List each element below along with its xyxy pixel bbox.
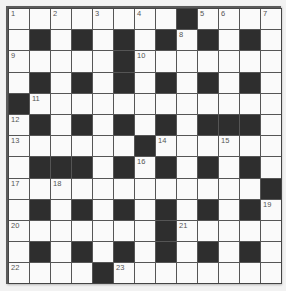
answer-cell[interactable]: 12 bbox=[9, 115, 29, 135]
answer-cell[interactable] bbox=[51, 200, 71, 220]
answer-cell[interactable] bbox=[177, 51, 197, 71]
answer-cell[interactable] bbox=[156, 94, 176, 114]
answer-cell[interactable] bbox=[261, 263, 281, 283]
answer-cell[interactable] bbox=[51, 115, 71, 135]
answer-cell[interactable]: 6 bbox=[219, 9, 239, 29]
answer-cell[interactable]: 4 bbox=[135, 9, 155, 29]
answer-cell[interactable] bbox=[135, 263, 155, 283]
answer-cell[interactable] bbox=[135, 94, 155, 114]
answer-cell[interactable] bbox=[51, 263, 71, 283]
answer-cell[interactable] bbox=[219, 179, 239, 199]
answer-cell[interactable] bbox=[219, 200, 239, 220]
answer-cell[interactable] bbox=[177, 136, 197, 156]
answer-cell[interactable] bbox=[177, 263, 197, 283]
answer-cell[interactable] bbox=[240, 136, 260, 156]
answer-cell[interactable]: 2 bbox=[51, 9, 71, 29]
answer-cell[interactable] bbox=[114, 179, 134, 199]
answer-cell[interactable] bbox=[72, 221, 92, 241]
answer-cell[interactable] bbox=[93, 179, 113, 199]
answer-cell[interactable] bbox=[93, 221, 113, 241]
answer-cell[interactable] bbox=[51, 51, 71, 71]
answer-cell[interactable]: 3 bbox=[93, 9, 113, 29]
answer-cell[interactable] bbox=[261, 115, 281, 135]
answer-cell[interactable] bbox=[219, 263, 239, 283]
answer-cell[interactable]: 22 bbox=[9, 263, 29, 283]
answer-cell[interactable] bbox=[156, 263, 176, 283]
answer-cell[interactable] bbox=[93, 73, 113, 93]
answer-cell[interactable] bbox=[9, 73, 29, 93]
answer-cell[interactable] bbox=[240, 94, 260, 114]
answer-cell[interactable] bbox=[198, 221, 218, 241]
answer-cell[interactable] bbox=[156, 51, 176, 71]
answer-cell[interactable] bbox=[240, 221, 260, 241]
answer-cell[interactable] bbox=[9, 157, 29, 177]
answer-cell[interactable] bbox=[261, 94, 281, 114]
answer-cell[interactable]: 1 bbox=[9, 9, 29, 29]
answer-cell[interactable] bbox=[9, 242, 29, 262]
answer-cell[interactable]: 10 bbox=[135, 51, 155, 71]
answer-cell[interactable]: 14 bbox=[156, 136, 176, 156]
answer-cell[interactable] bbox=[93, 94, 113, 114]
answer-cell[interactable] bbox=[198, 263, 218, 283]
answer-cell[interactable] bbox=[9, 200, 29, 220]
answer-cell[interactable] bbox=[219, 242, 239, 262]
answer-cell[interactable] bbox=[135, 73, 155, 93]
answer-cell[interactable] bbox=[72, 179, 92, 199]
answer-cell[interactable] bbox=[177, 94, 197, 114]
answer-cell[interactable] bbox=[177, 200, 197, 220]
answer-cell[interactable] bbox=[30, 179, 50, 199]
answer-cell[interactable]: 17 bbox=[9, 179, 29, 199]
answer-cell[interactable] bbox=[93, 157, 113, 177]
answer-cell[interactable] bbox=[261, 136, 281, 156]
answer-cell[interactable] bbox=[72, 51, 92, 71]
answer-cell[interactable] bbox=[72, 9, 92, 29]
answer-cell[interactable] bbox=[135, 200, 155, 220]
answer-cell[interactable] bbox=[72, 136, 92, 156]
answer-cell[interactable] bbox=[177, 115, 197, 135]
answer-cell[interactable]: 18 bbox=[51, 179, 71, 199]
answer-cell[interactable] bbox=[93, 115, 113, 135]
answer-cell[interactable] bbox=[198, 51, 218, 71]
answer-cell[interactable] bbox=[72, 94, 92, 114]
answer-cell[interactable] bbox=[198, 94, 218, 114]
answer-cell[interactable]: 15 bbox=[219, 136, 239, 156]
answer-cell[interactable] bbox=[93, 30, 113, 50]
answer-cell[interactable] bbox=[198, 179, 218, 199]
answer-cell[interactable] bbox=[156, 9, 176, 29]
answer-cell[interactable]: 11 bbox=[30, 94, 50, 114]
answer-cell[interactable] bbox=[51, 94, 71, 114]
answer-cell[interactable] bbox=[51, 242, 71, 262]
answer-cell[interactable] bbox=[261, 73, 281, 93]
answer-cell[interactable] bbox=[219, 30, 239, 50]
answer-cell[interactable] bbox=[240, 179, 260, 199]
answer-cell[interactable] bbox=[9, 30, 29, 50]
answer-cell[interactable]: 7 bbox=[261, 9, 281, 29]
answer-cell[interactable] bbox=[51, 221, 71, 241]
answer-cell[interactable] bbox=[219, 51, 239, 71]
answer-cell[interactable] bbox=[93, 136, 113, 156]
answer-cell[interactable] bbox=[135, 242, 155, 262]
answer-cell[interactable] bbox=[93, 242, 113, 262]
answer-cell[interactable] bbox=[72, 263, 92, 283]
answer-cell[interactable] bbox=[114, 94, 134, 114]
answer-cell[interactable] bbox=[219, 221, 239, 241]
answer-cell[interactable] bbox=[114, 136, 134, 156]
answer-cell[interactable] bbox=[219, 157, 239, 177]
answer-cell[interactable] bbox=[219, 94, 239, 114]
answer-cell[interactable]: 19 bbox=[261, 200, 281, 220]
answer-cell[interactable] bbox=[219, 73, 239, 93]
answer-cell[interactable]: 20 bbox=[9, 221, 29, 241]
answer-cell[interactable] bbox=[30, 9, 50, 29]
answer-cell[interactable]: 5 bbox=[198, 9, 218, 29]
answer-cell[interactable] bbox=[261, 242, 281, 262]
answer-cell[interactable] bbox=[93, 200, 113, 220]
answer-cell[interactable] bbox=[261, 157, 281, 177]
answer-cell[interactable] bbox=[240, 51, 260, 71]
answer-cell[interactable]: 23 bbox=[114, 263, 134, 283]
answer-cell[interactable] bbox=[177, 157, 197, 177]
answer-cell[interactable]: 8 bbox=[177, 30, 197, 50]
answer-cell[interactable]: 13 bbox=[9, 136, 29, 156]
answer-cell[interactable] bbox=[30, 263, 50, 283]
answer-cell[interactable] bbox=[51, 136, 71, 156]
answer-cell[interactable]: 21 bbox=[177, 221, 197, 241]
